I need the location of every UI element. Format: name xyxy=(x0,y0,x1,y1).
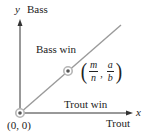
open-paren: ( xyxy=(81,59,87,83)
fraction-m-over-n: m n xyxy=(89,60,98,83)
region-label-bass-win: Bass win xyxy=(36,44,76,55)
ratio-point-label: ( m n , a b ) xyxy=(80,59,123,83)
separator-comma: , xyxy=(100,64,103,79)
fraction-numerator-m: m xyxy=(89,60,98,72)
region-label-trout-win: Trout win xyxy=(64,99,107,110)
x-axis-arrow-icon xyxy=(126,111,133,116)
y-axis-arrow-icon xyxy=(18,19,23,26)
x-axis-label: Trout xyxy=(106,118,130,129)
y-axis-label: Bass xyxy=(27,4,48,15)
origin-point-dot xyxy=(18,111,22,115)
x-axis-variable: x xyxy=(136,107,141,118)
fraction-a-over-b: a b xyxy=(107,60,114,83)
fraction-denominator-b: b xyxy=(108,72,113,83)
trout-bass-diagram: y Bass x Trout Bass win Trout win (0, 0)… xyxy=(0,0,152,137)
close-paren: ) xyxy=(116,59,122,83)
fraction-denominator-n: n xyxy=(91,72,96,83)
origin-label: (0, 0) xyxy=(7,120,31,131)
fraction-numerator-a: a xyxy=(107,60,114,72)
ratio-point-dot xyxy=(66,69,70,73)
y-axis-variable: y xyxy=(15,4,20,15)
